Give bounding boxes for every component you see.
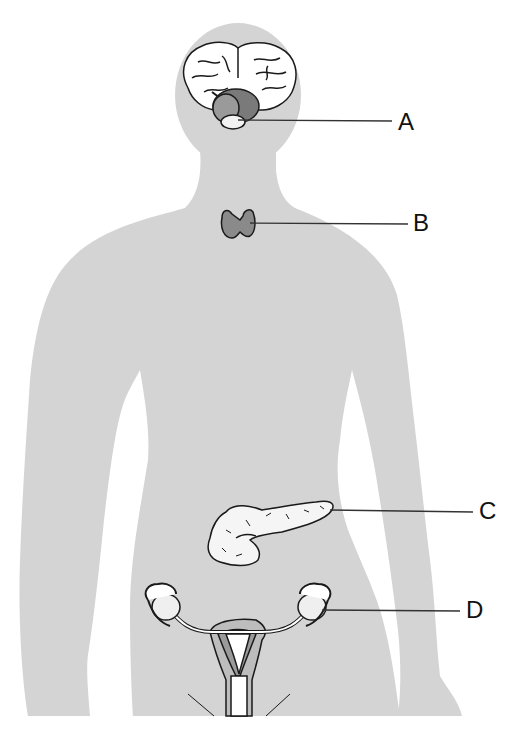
label-a: A — [398, 110, 414, 134]
label-c: C — [479, 499, 496, 523]
label-d: D — [466, 598, 483, 622]
label-b: B — [413, 211, 429, 235]
diagram-canvas — [0, 0, 529, 752]
endocrine-diagram: A B C D — [0, 0, 529, 752]
